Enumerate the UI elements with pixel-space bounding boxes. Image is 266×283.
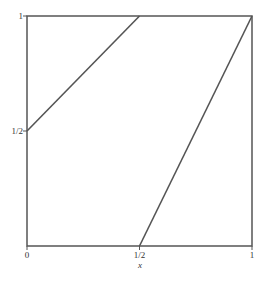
y-tick-label: 1: [19, 11, 24, 21]
plot-frame: [27, 16, 252, 246]
series-group: [27, 16, 252, 246]
x-tick-label: 1: [250, 250, 255, 260]
x-tick-label: 0: [25, 250, 30, 260]
x-axis-ticks: 01/21: [25, 246, 255, 260]
x-axis-label: x: [137, 260, 142, 270]
y-axis-ticks: 1/21: [11, 11, 27, 136]
x-tick-label: 1/2: [134, 250, 146, 260]
line-segment-2: [140, 16, 253, 246]
line-segment-1: [27, 16, 140, 131]
chart: 01/21 1/21 x: [0, 0, 266, 283]
y-tick-label: 1/2: [11, 126, 23, 136]
